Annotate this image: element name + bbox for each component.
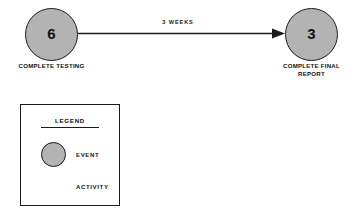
event-node-6[interactable]: 6	[25, 8, 78, 61]
activity-arrow-head-icon	[272, 29, 285, 39]
activity-duration-label: 3 WEEKS	[133, 19, 223, 25]
event-node-6-label: COMPLETE TESTING	[0, 62, 103, 70]
event-node-3-number: 3	[286, 25, 337, 42]
event-node-3-label: COMPLETE FINAL REPORT	[268, 62, 355, 78]
legend-title: LEGEND	[32, 117, 108, 124]
legend-item-label-activity: ACTIVITY	[76, 183, 109, 190]
network-diagram-canvas: 6 COMPLETE TESTING 3 COMPLETE FINAL REPO…	[0, 0, 355, 214]
legend-item-label-event: EVENT	[76, 151, 99, 158]
legend-title-underline	[41, 127, 99, 128]
event-node-3[interactable]: 3	[285, 8, 338, 61]
legend-event-circle-icon	[41, 142, 66, 167]
event-node-6-number: 6	[26, 25, 77, 42]
